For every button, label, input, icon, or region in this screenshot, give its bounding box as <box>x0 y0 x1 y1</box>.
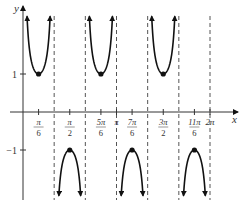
asymptote-lines <box>54 16 210 200</box>
curve-branch-right <box>70 150 81 196</box>
curve-branch-right <box>101 16 113 74</box>
curve-branch-left <box>27 16 39 74</box>
x-tick-numerator: π <box>68 117 73 127</box>
x-tick-denominator: 2 <box>161 128 165 138</box>
extremum-point <box>98 71 103 76</box>
y-tick-label: 1 <box>12 69 17 80</box>
extremum-point <box>67 147 72 152</box>
curve-branch-right <box>194 150 205 196</box>
curve-branch-left <box>184 150 195 196</box>
extremum-point <box>129 147 134 152</box>
axis-labels: yx1−1π6π25π6π7π63π211π62π <box>6 2 237 156</box>
curve-branch-left <box>89 16 101 74</box>
x-tick-numerator: 7π <box>128 117 137 127</box>
csc-graph: yx1−1π6π25π6π7π63π211π62π <box>0 0 242 201</box>
x-tick-label: π <box>114 118 119 127</box>
curve-branch-right <box>132 150 143 196</box>
x-tick-denominator: 6 <box>130 128 134 138</box>
x-tick-label: 2π <box>205 117 215 127</box>
x-tick-numerator: 11π <box>188 117 201 127</box>
y-tick-label: −1 <box>6 145 17 156</box>
x-tick-denominator: 6 <box>99 128 103 138</box>
x-tick-denominator: 6 <box>36 128 40 138</box>
x-tick-denominator: 2 <box>68 128 72 138</box>
x-tick-numerator: π <box>36 117 41 127</box>
x-tick-numerator: 3π <box>158 117 168 127</box>
extremum-point <box>161 71 166 76</box>
curve-branch-left <box>121 150 132 196</box>
x-tick-denominator: 6 <box>192 128 196 138</box>
x-axis-label: x <box>231 113 237 125</box>
y-axis-label: y <box>13 2 19 14</box>
extremum-point <box>192 147 197 152</box>
curve-branch-left <box>152 16 164 74</box>
curve-branch-right <box>39 16 51 74</box>
curve-branch-left <box>59 150 70 196</box>
x-tick-numerator: 5π <box>97 117 106 127</box>
extremum-point <box>36 71 41 76</box>
curve-branch-right <box>163 16 175 74</box>
curve-branches <box>27 16 205 195</box>
